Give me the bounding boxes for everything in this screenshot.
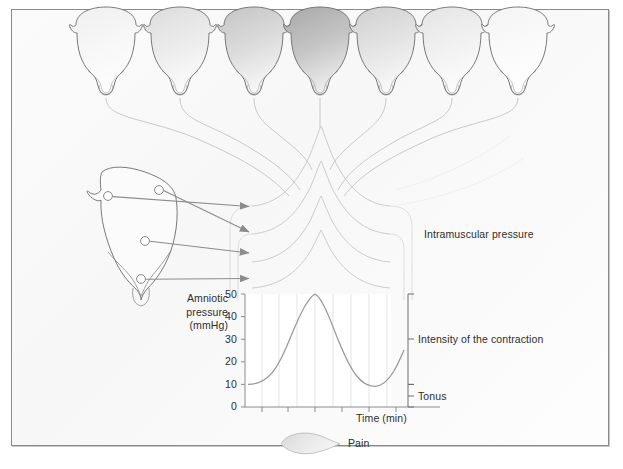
tonus-label: Tonus bbox=[418, 390, 447, 402]
uterus-illustration-4 bbox=[284, 7, 357, 95]
intramuscular-trace-tails bbox=[230, 206, 412, 300]
y-tick-50: 50 bbox=[209, 288, 237, 300]
y-tick-10: 10 bbox=[209, 378, 237, 390]
uterus-illustration-2 bbox=[144, 7, 217, 95]
intramuscular-pressure-traces bbox=[252, 126, 390, 288]
amniotic-pressure-chart bbox=[241, 294, 440, 412]
catheter-point-icon bbox=[141, 237, 150, 246]
intramuscular-pressure-label: Intramuscular pressure bbox=[424, 228, 534, 240]
pain-teardrop-icon bbox=[282, 433, 341, 454]
catheter-point-icon bbox=[104, 192, 113, 201]
measurement-brackets bbox=[408, 294, 414, 407]
catheter-point-icon bbox=[137, 275, 146, 284]
y-tick-20: 20 bbox=[209, 355, 237, 367]
uterus-connectors bbox=[106, 98, 518, 196]
pain-label: Pain bbox=[348, 437, 369, 449]
uterus-illustration-7 bbox=[482, 7, 555, 95]
uterus-illustration-5 bbox=[350, 7, 423, 95]
intensity-of-contraction-label: Intensity of the contraction bbox=[418, 333, 543, 345]
catheter-point-icon bbox=[155, 186, 164, 195]
catheter-uterus-diagram bbox=[87, 167, 177, 306]
chart-y-ticks bbox=[241, 294, 245, 407]
uterus-illustration-6 bbox=[416, 7, 489, 95]
figure-root: Amniotic pressure (mmHg) 50 40 30 20 10 … bbox=[0, 0, 623, 469]
arrow-right-icon bbox=[146, 279, 249, 280]
time-axis-label: Time (min) bbox=[356, 412, 407, 424]
y-tick-40: 40 bbox=[209, 310, 237, 322]
y-tick-30: 30 bbox=[209, 333, 237, 345]
uterus-illustration-1 bbox=[70, 7, 143, 95]
uterus-illustration-3 bbox=[218, 7, 291, 95]
y-tick-0: 0 bbox=[209, 400, 237, 412]
pain-legend bbox=[282, 433, 341, 454]
uterus-row bbox=[70, 7, 555, 95]
